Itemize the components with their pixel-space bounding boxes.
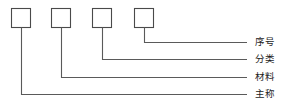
leader-line-cailiao <box>62 28 248 78</box>
diagram-canvas <box>0 0 284 109</box>
code-box-4[interactable] <box>135 9 154 28</box>
code-box-3[interactable] <box>93 9 112 28</box>
callout-label-zhucheng: 主称 <box>255 89 276 99</box>
leader-line-fenlei <box>103 28 248 60</box>
leader-line-xuhao <box>145 28 248 43</box>
callout-label-fenlei: 分类 <box>255 54 276 64</box>
code-structure-diagram: 序号 分类 材料 主称 <box>0 0 284 109</box>
leader-line-zhucheng <box>22 28 248 95</box>
code-box-1[interactable] <box>12 9 31 28</box>
code-box-2[interactable] <box>52 9 71 28</box>
callout-label-cailiao: 材料 <box>255 72 276 82</box>
callout-label-xuhao: 序号 <box>255 37 276 47</box>
